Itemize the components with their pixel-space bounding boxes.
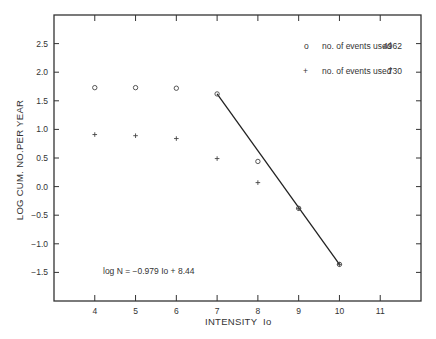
- x-tick-label: 8: [256, 306, 261, 316]
- y-tick-label: 1.0: [36, 124, 48, 134]
- legend-symbol-plus: +: [303, 66, 308, 76]
- legend-symbol-circle: o: [304, 41, 309, 51]
- x-axis-label: INTENSITY Io: [205, 316, 272, 327]
- legend-label-1: no. of events used: [322, 41, 392, 51]
- y-tick-label: 0.5: [36, 153, 48, 163]
- point-circle: [133, 85, 137, 89]
- y-tick-label: 2.5: [36, 39, 48, 49]
- regression-line: [217, 94, 339, 264]
- legend-count-2: 730: [388, 66, 402, 76]
- point-circle: [93, 85, 97, 89]
- x-tick-label: 5: [133, 306, 138, 316]
- y-tick-label: −1.5: [31, 267, 48, 277]
- fit-equation: log N = −0.979 Io + 8.44: [103, 266, 195, 276]
- legend-count-1: 4962: [383, 41, 402, 51]
- data-points: [92, 85, 341, 266]
- plot-frame: [54, 15, 421, 301]
- y-tick-label: 1.5: [36, 96, 48, 106]
- x-tick-label: 4: [92, 306, 97, 316]
- x-tick-label: 10: [335, 306, 345, 316]
- x-tick-label: 7: [215, 306, 220, 316]
- x-tick-label: 9: [296, 306, 301, 316]
- legend: o no. of events used 4962 + no. of event…: [303, 41, 402, 76]
- legend-label-2: no. of events used: [322, 66, 392, 76]
- y-tick-label: −0.5: [31, 210, 48, 220]
- point-circle: [256, 159, 260, 163]
- x-tick-label: 6: [174, 306, 179, 316]
- y-tick-label: −1.0: [31, 239, 48, 249]
- point-circle: [174, 86, 178, 90]
- y-tick-label: 2.0: [36, 67, 48, 77]
- x-tick-label: 11: [376, 306, 385, 316]
- y-tick-label: 0.0: [36, 182, 48, 192]
- y-axis-label: LOG CUM. NO.PER YEAR: [14, 100, 25, 220]
- plot-border: [54, 15, 421, 301]
- chart: 4567891011 2.52.01.51.00.50.0−0.5−1.0−1.…: [0, 0, 436, 339]
- fit-line: [217, 94, 339, 264]
